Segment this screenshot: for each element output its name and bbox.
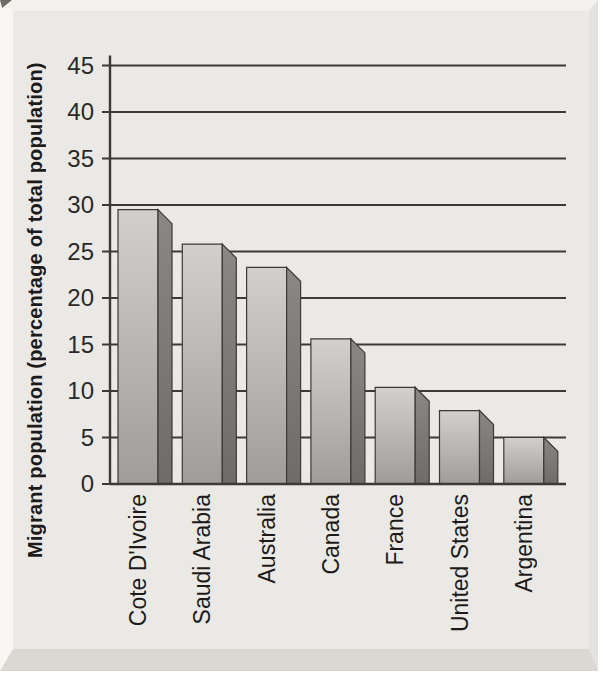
category-label: Australia [254, 494, 280, 583]
bar-side-face [544, 438, 558, 485]
category-label: Argentina [511, 494, 537, 592]
bar-side-face [287, 267, 301, 484]
category-label: Canada [318, 494, 344, 575]
bar-front-face [375, 387, 415, 484]
y-tick-label: 10 [30, 377, 94, 405]
y-tick-label: 35 [30, 145, 94, 173]
bar-chart: Migrant population (percentage of total … [0, 0, 603, 684]
y-tick-label: 40 [30, 98, 94, 126]
bar-front-face [311, 339, 351, 484]
bar-front-face [247, 267, 287, 484]
bar-2 [247, 267, 301, 484]
bar-front-face [504, 438, 544, 485]
bar-side-face [415, 387, 429, 484]
bar-front-face [440, 411, 480, 484]
y-tick-label: 5 [30, 424, 94, 452]
bar-4 [375, 387, 429, 484]
bar-side-face [222, 244, 236, 484]
bar-6 [504, 438, 558, 485]
bar-front-face [118, 210, 158, 484]
y-tick-label: 30 [30, 191, 94, 219]
bar-front-face [182, 244, 222, 484]
y-tick-label: 45 [30, 52, 94, 80]
y-tick-label: 15 [30, 331, 94, 359]
y-tick-label: 25 [30, 238, 94, 266]
category-label: United States [447, 494, 473, 632]
bar-side-face [351, 339, 365, 484]
category-label: Saudi Arabia [189, 494, 215, 624]
figure: Migrant population (percentage of total … [0, 0, 603, 684]
y-tick-label: 20 [30, 284, 94, 312]
y-tick-label: 0 [30, 470, 94, 498]
bar-3 [311, 339, 365, 484]
bar-1 [182, 244, 236, 484]
bar-5 [440, 411, 494, 484]
bar-0 [118, 210, 172, 484]
category-label: France [382, 494, 408, 566]
category-label: Cote D'Ivoire [125, 494, 151, 626]
bar-side-face [158, 210, 172, 484]
bar-side-face [480, 411, 494, 484]
